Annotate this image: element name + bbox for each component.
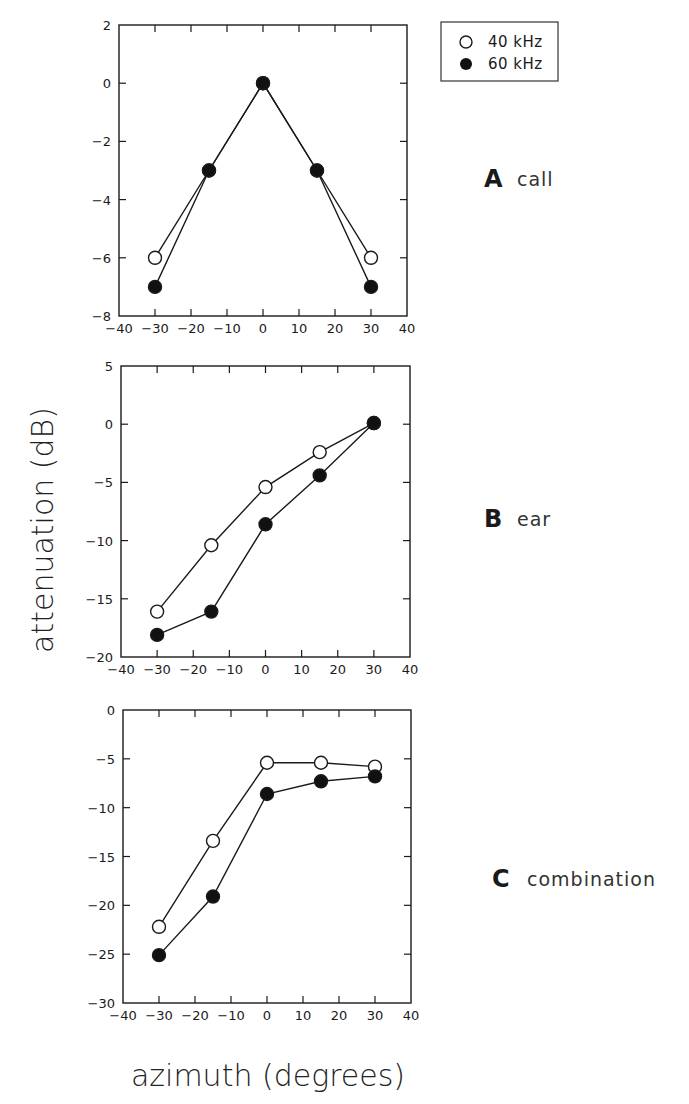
filled-circle-icon <box>205 605 218 618</box>
open-circle-icon <box>365 251 378 264</box>
x-tick-label: −30 <box>141 321 168 336</box>
x-tick-label: −20 <box>181 1008 208 1023</box>
x-tick-label: 20 <box>327 321 344 336</box>
series-line-60khz <box>159 776 375 955</box>
plot-area-call: −40−30−20−1001020304020−2−4−6−8 <box>92 18 415 336</box>
y-tick-label: 0 <box>107 703 115 718</box>
filled-circle-icon <box>259 518 272 531</box>
plot-frame <box>123 710 411 1003</box>
x-tick-label: 40 <box>402 662 419 677</box>
plot-area-ear: −40−30−20−1001020304050−5−10−15−20 <box>86 359 419 677</box>
open-circle-icon <box>261 756 274 769</box>
panel-title-ear: ear <box>517 508 551 530</box>
x-tick-label: 20 <box>331 1008 348 1023</box>
x-tick-label: −20 <box>177 321 204 336</box>
series-line-60khz <box>155 83 371 287</box>
y-tick-label: −10 <box>88 801 115 816</box>
x-tick-label: 0 <box>261 662 269 677</box>
y-tick-label: 5 <box>105 359 113 374</box>
panel-title-combination: combination <box>527 868 656 890</box>
x-tick-label: 40 <box>403 1008 420 1023</box>
x-tick-label: −10 <box>217 1008 244 1023</box>
y-tick-label: −5 <box>94 475 113 490</box>
open-circle-icon <box>207 834 220 847</box>
panel-b: −40−30−20−1001020304050−5−10−15−20 B ear <box>86 359 552 677</box>
filled-circle-icon <box>313 469 326 482</box>
filled-circle-icon <box>261 787 274 800</box>
series-line-40khz <box>155 83 371 258</box>
plot-area-combination: −40−30−20−100102030400−5−10−15−20−25−30 <box>88 703 420 1023</box>
open-circle-icon <box>259 481 272 494</box>
y-tick-label: −15 <box>86 592 113 607</box>
panel-letter-c: C <box>492 865 510 893</box>
y-tick-label: −25 <box>88 947 115 962</box>
x-tick-label: 0 <box>263 1008 271 1023</box>
y-tick-label: −20 <box>88 898 115 913</box>
filled-circle-icon <box>369 770 382 783</box>
y-tick-label: −6 <box>92 251 111 266</box>
x-tick-label: −30 <box>143 662 170 677</box>
chart-canvas: −40−30−20−1001020304020−2−4−6−8 A call −… <box>0 0 689 1104</box>
filled-circle-icon <box>151 628 164 641</box>
x-tick-label: −30 <box>145 1008 172 1023</box>
x-tick-label: 0 <box>259 321 267 336</box>
filled-circle-icon <box>311 164 324 177</box>
plot-frame <box>121 366 410 657</box>
filled-circle-icon <box>365 280 378 293</box>
x-tick-label: 20 <box>329 662 346 677</box>
y-tick-label: −10 <box>86 534 113 549</box>
y-tick-label: −30 <box>88 996 115 1011</box>
x-tick-label: 30 <box>367 1008 384 1023</box>
filled-circle-icon <box>367 417 380 430</box>
y-tick-label: −15 <box>88 850 115 865</box>
y-tick-label: −20 <box>86 650 113 665</box>
legend-label-40khz: 40 kHz <box>488 33 543 51</box>
y-tick-label: 2 <box>103 18 111 33</box>
x-tick-label: −10 <box>213 321 240 336</box>
panel-letter-a: A <box>484 165 503 193</box>
open-circle-icon <box>460 36 472 48</box>
legend: 40 kHz 60 kHz <box>441 22 558 81</box>
y-tick-label: −2 <box>92 134 111 149</box>
open-circle-icon <box>153 920 166 933</box>
x-tick-label: 10 <box>291 321 308 336</box>
legend-label-60khz: 60 kHz <box>488 55 543 73</box>
filled-circle-icon <box>315 775 328 788</box>
filled-circle-icon <box>203 164 216 177</box>
y-tick-label: −8 <box>92 309 111 324</box>
x-tick-label: −10 <box>216 662 243 677</box>
panel-title-call: call <box>517 168 554 190</box>
x-tick-label: −20 <box>180 662 207 677</box>
y-tick-label: 0 <box>103 76 111 91</box>
x-tick-label: 40 <box>399 321 416 336</box>
x-tick-label: 30 <box>366 662 383 677</box>
open-circle-icon <box>313 446 326 459</box>
y-tick-label: 0 <box>105 417 113 432</box>
panel-letter-b: B <box>484 505 502 533</box>
open-circle-icon <box>151 605 164 618</box>
filled-circle-icon <box>257 77 270 90</box>
filled-circle-icon <box>460 58 472 70</box>
x-tick-label: 10 <box>293 662 310 677</box>
y-tick-label: −5 <box>96 752 115 767</box>
filled-circle-icon <box>149 280 162 293</box>
filled-circle-icon <box>153 949 166 962</box>
panel-c: −40−30−20−100102030400−5−10−15−20−25−30 … <box>88 703 656 1023</box>
y-tick-label: −4 <box>92 193 111 208</box>
figure: −40−30−20−1001020304020−2−4−6−8 A call −… <box>0 0 689 1104</box>
filled-circle-icon <box>207 890 220 903</box>
open-circle-icon <box>149 251 162 264</box>
x-axis-title: azimuth (degrees) <box>131 1058 405 1093</box>
y-axis-title: attenuation (dB) <box>25 407 60 653</box>
x-tick-label: 30 <box>363 321 380 336</box>
open-circle-icon <box>205 539 218 552</box>
open-circle-icon <box>315 756 328 769</box>
x-tick-label: 10 <box>295 1008 312 1023</box>
